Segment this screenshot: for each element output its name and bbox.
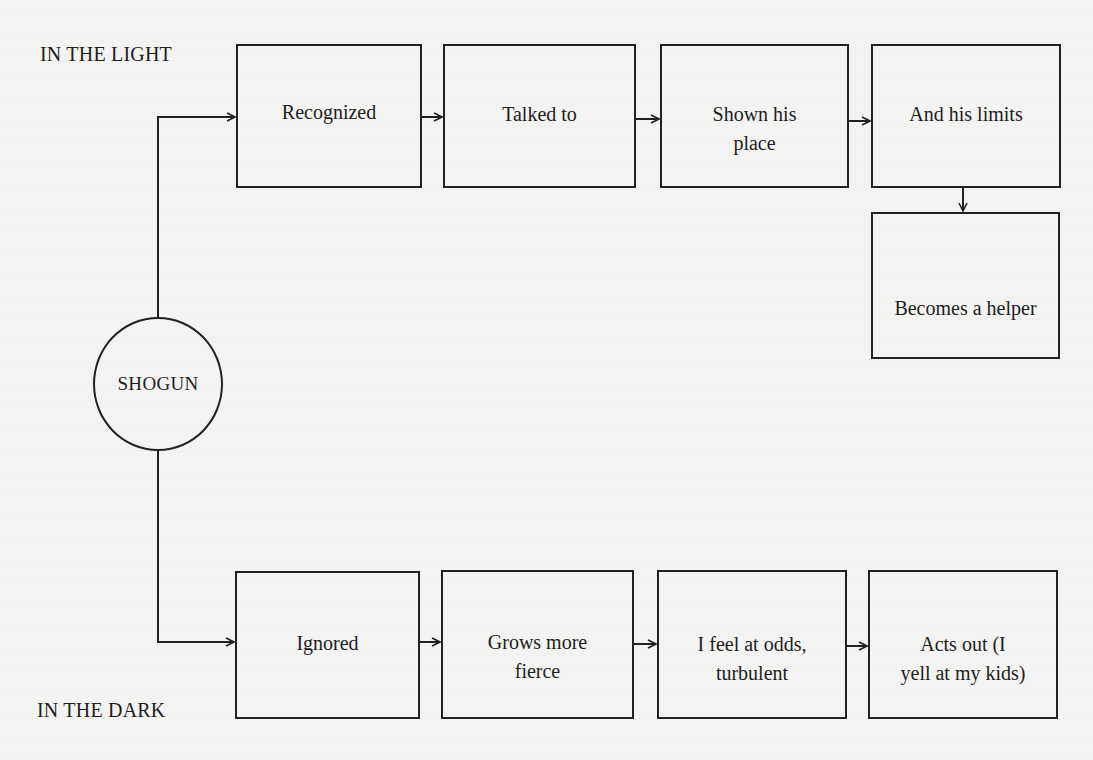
node-ignored: Ignored (235, 571, 420, 719)
node-label-line1: Grows more (488, 628, 587, 657)
node-shown-his-place: Shown his place (660, 44, 849, 188)
node-label-line1: Becomes a helper (894, 294, 1036, 323)
node-label-line2: turbulent (698, 659, 807, 688)
node-label-line1: Acts out (I (901, 630, 1026, 659)
node-grows-more-fierce: Grows more fierce (441, 570, 634, 719)
edge-shogun-recognized (158, 117, 235, 318)
node-label-line1: I feel at odds, (698, 630, 807, 659)
node-label-line2: yell at my kids) (901, 659, 1026, 688)
node-label-line1: Talked to (502, 100, 577, 129)
node-acts-out: Acts out (I yell at my kids) (868, 570, 1058, 719)
node-becomes-a-helper: Becomes a helper (871, 212, 1060, 359)
node-label-line1: Ignored (296, 629, 358, 658)
shogun-node-label: SHOGUN (118, 373, 199, 395)
section-label-dark: IN THE DARK (37, 699, 166, 722)
node-label-line2: place (713, 129, 797, 158)
node-feel-at-odds: I feel at odds, turbulent (657, 570, 847, 719)
node-label-line1: Shown his (713, 100, 797, 129)
node-and-his-limits: And his limits (871, 44, 1061, 188)
node-label-line1: And his limits (909, 100, 1022, 129)
node-recognized: Recognized (236, 44, 422, 188)
node-label-line1: Recognized (282, 98, 376, 127)
node-label-line2: fierce (488, 657, 587, 686)
section-label-light: IN THE LIGHT (40, 43, 172, 66)
shogun-node: SHOGUN (93, 317, 223, 451)
edge-shogun-ignored (158, 450, 234, 642)
node-talked-to: Talked to (443, 44, 636, 188)
